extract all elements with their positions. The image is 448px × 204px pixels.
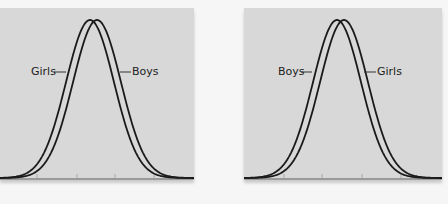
curve-girls — [244, 20, 442, 178]
curve-girls — [0, 20, 194, 178]
series-label-boys: Boys — [132, 66, 159, 78]
distribution-chart-right — [244, 8, 442, 180]
chart-panel-right: Boys Girls — [244, 8, 442, 180]
series-label-girls: Girls — [377, 66, 402, 78]
series-label-boys: Boys — [278, 66, 305, 78]
curve-boys — [244, 20, 442, 178]
series-label-girls: Girls — [31, 66, 56, 78]
chart-panel-left: Girls Boys — [0, 8, 194, 180]
curve-boys — [0, 20, 194, 178]
distribution-chart-left — [0, 8, 194, 180]
